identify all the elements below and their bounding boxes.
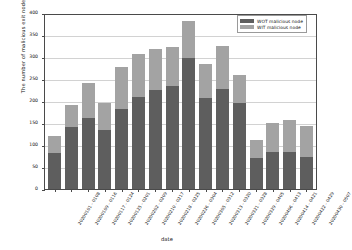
y-tick-label: 100 [4,143,38,148]
chart-legend: WOT malicious nodeWIT malicious node [237,15,307,33]
y-tick-label: 400 [4,11,38,16]
bar-segment-wot [115,109,128,189]
bar-11 [216,15,229,189]
bar-segment-wot [132,97,145,189]
bar-1 [48,15,61,189]
bar-segment-wit [233,75,246,103]
bar-12 [233,15,246,189]
bar-segment-wot [166,86,179,189]
y-tick-mark [42,58,45,59]
y-tick-label: 150 [4,121,38,126]
bar-15 [283,15,296,189]
bar-segment-wot [98,130,111,189]
bar-segment-wot [216,89,229,189]
legend-item-2: WIT malicious node [240,24,303,30]
bar-segment-wit [48,136,61,154]
bar-segment-wit [250,140,263,158]
bar-segment-wit [216,46,229,89]
bar-segment-wit [199,64,212,98]
bar-series-container [45,15,316,189]
bar-6 [132,15,145,189]
y-tick-mark [42,102,45,103]
y-tick-label: 200 [4,99,38,104]
bar-segment-wot [65,127,78,189]
bar-16 [300,15,313,189]
bar-segment-wit [283,120,296,153]
bar-segment-wot [199,98,212,189]
legend-swatch [240,19,254,23]
bar-segment-wit [115,67,128,109]
bar-2 [65,15,78,189]
bar-segment-wit [65,105,78,127]
legend-label: WOT malicious node [257,19,303,24]
bar-segment-wot [300,157,313,189]
bar-segment-wit [98,103,111,130]
bar-segment-wot [266,152,279,189]
bar-9 [182,15,195,189]
bar-7 [149,15,162,189]
x-axis-title: date [0,236,334,242]
y-tick-label: 0 [4,187,38,192]
y-tick-label: 250 [4,77,38,82]
bar-segment-wit [166,47,179,86]
bar-segment-wot [82,118,95,189]
bar-segment-wit [132,54,145,97]
bar-10 [199,15,212,189]
bar-segment-wit [300,126,313,157]
bar-4 [98,15,111,189]
bar-segment-wit [266,123,279,152]
bar-13 [250,15,263,189]
y-tick-mark [42,124,45,125]
y-tick-mark [42,146,45,147]
y-tick-label: 350 [4,33,38,38]
y-tick-mark [42,168,45,169]
bar-3 [82,15,95,189]
bar-segment-wit [149,49,162,90]
plot-area [44,14,317,190]
bar-segment-wit [182,21,195,58]
y-tick-label: 50 [4,165,38,170]
bar-segment-wit [82,83,95,118]
bar-segment-wot [48,153,61,189]
y-tick-label: 300 [4,55,38,60]
bar-segment-wot [283,152,296,189]
legend-label: WIT malicious node [257,25,301,30]
bar-14 [266,15,279,189]
bar-segment-wot [149,90,162,189]
legend-swatch [240,25,254,29]
bar-segment-wot [182,58,195,189]
bar-5 [115,15,128,189]
y-tick-mark [42,14,45,15]
y-tick-mark [42,36,45,37]
y-tick-mark [42,80,45,81]
bar-8 [166,15,179,189]
bar-segment-wot [250,158,263,189]
x-axis-tick-labels: 20200101 - 010820200109 - 011620200117 -… [44,191,317,237]
bar-segment-wot [233,103,246,189]
